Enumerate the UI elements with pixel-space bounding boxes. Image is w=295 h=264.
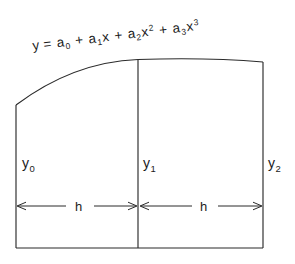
interval-label-h-left: h bbox=[75, 199, 82, 214]
figure-canvas: y0 y1 y2 h h y=a0+a1x+a2x2+a3x3 bbox=[0, 0, 295, 264]
ordinate-label-y2: y2 bbox=[268, 155, 281, 174]
polynomial-equation-text: y=a0+a1x+a2x2+a3x3 bbox=[31, 17, 200, 55]
interval-label-h-right: h bbox=[200, 199, 207, 214]
cubic-polynomial-curve bbox=[16, 59, 263, 105]
simpsons-rule-figure: y0 y1 y2 h h y=a0+a1x+a2x2+a3x3 bbox=[0, 0, 295, 264]
ordinate-label-y0: y0 bbox=[22, 155, 35, 174]
equation-annotation-group: y=a0+a1x+a2x2+a3x3 bbox=[31, 17, 200, 55]
ordinate-label-y1: y1 bbox=[143, 155, 156, 174]
